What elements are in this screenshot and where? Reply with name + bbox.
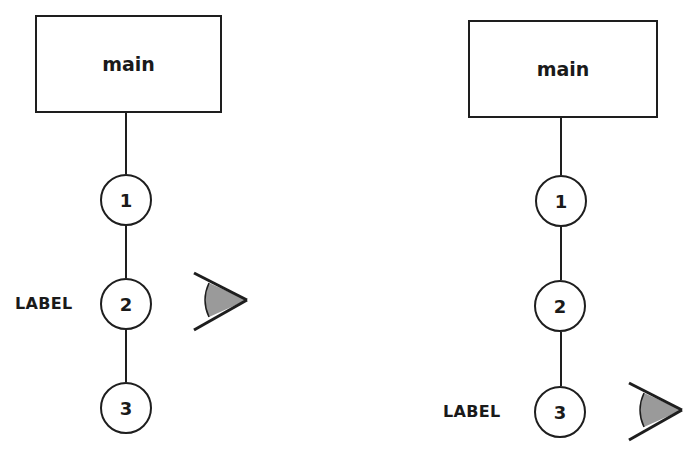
edge-2-to-3	[125, 330, 127, 382]
node-2: 2	[100, 278, 152, 330]
node-label: LABEL	[15, 294, 72, 313]
node-label: LABEL	[443, 402, 500, 421]
eye-icon	[192, 271, 250, 333]
node-2: 2	[534, 280, 586, 332]
main-box: main	[35, 15, 222, 113]
edge-1-to-2	[125, 226, 127, 278]
node-3: 3	[534, 386, 586, 438]
node-1: 1	[535, 175, 587, 227]
node-1: 1	[100, 174, 152, 226]
main-box: main	[468, 20, 658, 118]
edge-2-to-3	[560, 332, 562, 386]
node-3: 3	[100, 382, 152, 434]
edge-main-to-1	[560, 118, 562, 175]
edge-1-to-2	[560, 227, 562, 280]
edge-main-to-1	[125, 113, 127, 174]
eye-icon	[627, 381, 685, 443]
